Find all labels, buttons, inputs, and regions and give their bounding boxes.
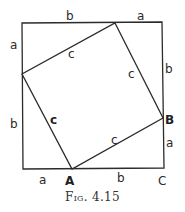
- point-label-c: C: [158, 174, 166, 188]
- label-top-b: b: [66, 9, 74, 23]
- figure-caption: Fig. 4.15: [0, 190, 185, 204]
- pythagorean-square-diagram: b a a b b a a b c c c c A B C: [0, 0, 185, 212]
- label-left-a: a: [10, 38, 17, 52]
- label-bottom-b: b: [117, 171, 125, 185]
- label-inner-right-c: c: [128, 67, 135, 81]
- label-inner-top-c: c: [68, 47, 75, 61]
- label-inner-left-c: c: [50, 113, 57, 127]
- label-inner-bottom-c: c: [111, 133, 118, 147]
- label-right-a: a: [166, 136, 173, 150]
- point-label-a: A: [65, 174, 75, 188]
- label-right-b: b: [165, 62, 173, 76]
- label-top-a: a: [137, 9, 144, 23]
- inner-square: [22, 23, 163, 169]
- point-label-b: B: [165, 113, 174, 127]
- label-bottom-a: a: [39, 173, 46, 187]
- label-left-b: b: [10, 117, 18, 131]
- outer-square: [22, 22, 164, 169]
